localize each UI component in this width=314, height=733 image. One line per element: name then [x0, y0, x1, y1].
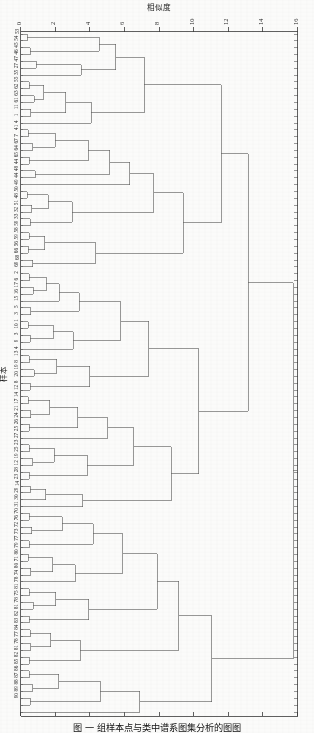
- leaf-label: 58: [14, 227, 20, 233]
- leaf-label: 24: [14, 412, 20, 418]
- leaf-label: 20: [14, 371, 20, 377]
- leaf-label: 76: [14, 515, 20, 521]
- leaf-label: 32: [14, 206, 20, 212]
- leaf-label: 15: [14, 295, 20, 301]
- leaf-label: 4: [14, 346, 20, 349]
- leaf-label: 65: [14, 152, 20, 158]
- axis-tick-label: 14: [257, 18, 264, 25]
- leaf-label: 59: [14, 220, 20, 226]
- leaf-label: 8: [14, 380, 20, 383]
- leaf-label: 44: [14, 172, 20, 178]
- leaf-label: 5: [14, 305, 20, 308]
- leaf-label: 1: [14, 319, 20, 322]
- leaf-label: 50: [14, 186, 20, 192]
- leaf-label: 49: [14, 179, 20, 185]
- leaf-label: 90: [14, 693, 20, 699]
- leaf-label: 69: [14, 261, 20, 267]
- leaf-label: 78: [14, 576, 20, 582]
- leaf-label: 10: [14, 323, 20, 329]
- leaf-label: 73: [14, 528, 20, 534]
- leaf-label: 59: [14, 234, 20, 240]
- axis-tick-label: 2: [49, 22, 56, 25]
- leaf-label: 81: [14, 645, 20, 651]
- leaf-label: 85: [14, 658, 20, 664]
- leaf-label: 51: [14, 200, 20, 206]
- leaf-label: 88: [14, 679, 20, 685]
- leaf-label: 81: [14, 583, 20, 589]
- leaf-label: 25: [14, 446, 20, 452]
- leaf-label: 3: [14, 332, 20, 335]
- leaf-label: 27: [14, 63, 20, 69]
- leaf-label: 30: [14, 494, 20, 500]
- leaf-label: 61: [14, 97, 20, 103]
- axis-title-sample: 样本: [0, 366, 8, 382]
- leaf-label: 6: [14, 278, 20, 281]
- leaf-label: 14: [14, 480, 20, 486]
- leaf-label: 17: [14, 282, 20, 288]
- axis-tick-label: 8: [153, 22, 160, 25]
- leaf-label: 2: [14, 271, 20, 274]
- leaf-label: 86: [14, 665, 20, 671]
- leaf-label: 48: [14, 193, 20, 199]
- leaf-label: 77: [14, 631, 20, 637]
- leaf-label: 4: [14, 120, 20, 123]
- leaf-label: 26: [14, 419, 20, 425]
- leaf-label: 23: [14, 439, 20, 445]
- leaf-label: 84: [14, 624, 20, 630]
- leaf-label: 47: [14, 56, 20, 62]
- leaf-label: 80: [14, 549, 20, 555]
- leaf-label: 3: [14, 312, 20, 315]
- leaf-label: 29: [14, 487, 20, 493]
- leaf-label: 48: [14, 165, 20, 171]
- leaf-label: 21: [14, 405, 20, 411]
- leaf-label: 33: [14, 213, 20, 219]
- leaf-label: 79: [14, 542, 20, 548]
- leaf-label: 82: [14, 611, 20, 617]
- leaf-label: 78: [14, 597, 20, 603]
- leaf-label: 74: [14, 569, 20, 575]
- leaf-label: 77: [14, 535, 20, 541]
- leaf-label: 7: [14, 134, 20, 137]
- leaf-label: 8: [14, 360, 20, 363]
- leaf-label: 46: [14, 49, 20, 55]
- leaf-label: 72: [14, 521, 20, 527]
- leaf-label: 64: [14, 145, 20, 151]
- leaf-label: 1: [14, 113, 20, 116]
- dendrogram-canvas: 0246810121416535445464727355562636111144…: [0, 0, 314, 733]
- leaf-label: 23: [14, 474, 20, 480]
- leaf-label: 25: [14, 426, 20, 432]
- leaf-label: 41: [14, 124, 20, 130]
- leaf-label: 87: [14, 672, 20, 678]
- leaf-label: 16: [14, 289, 20, 295]
- leaf-label: 12: [14, 460, 20, 466]
- leaf-label: 44: [14, 159, 20, 165]
- leaf-label: 53: [14, 28, 20, 34]
- leaf-label: 56: [14, 241, 20, 247]
- figure-caption: 图 一 组样本点与类中谱系图集分析的图图: [73, 722, 241, 733]
- leaf-label: 71: [14, 556, 20, 562]
- axis-tick-label: 4: [84, 21, 91, 25]
- leaf-label: 66: [14, 248, 20, 254]
- leaf-label: 19: [14, 453, 20, 459]
- leaf-label: 82: [14, 652, 20, 658]
- axis-tick-label: 6: [118, 22, 125, 25]
- leaf-label: 67: [14, 138, 20, 144]
- leaf-label: 54: [14, 35, 20, 41]
- leaf-label: 14: [14, 391, 20, 397]
- axis-tick-label: 10: [188, 19, 195, 25]
- axis-tick-label: 12: [222, 19, 229, 25]
- leaf-label: 78: [14, 638, 20, 644]
- leaf-label: 63: [14, 90, 20, 96]
- leaf-label: 45: [14, 42, 20, 48]
- leaf-label: 83: [14, 617, 20, 623]
- leaf-label: 9: [14, 339, 20, 342]
- leaf-label: 12: [14, 385, 20, 391]
- leaf-label: 28: [14, 467, 20, 473]
- leaf-label: 75: [14, 590, 20, 596]
- axis-title-similarity: 相似度: [147, 2, 171, 12]
- leaf-label: 27: [14, 432, 20, 438]
- leaf-label: 55: [14, 76, 20, 82]
- leaf-label: 80: [14, 563, 20, 569]
- leaf-label: 89: [14, 686, 20, 692]
- leaf-label: 19: [14, 364, 20, 370]
